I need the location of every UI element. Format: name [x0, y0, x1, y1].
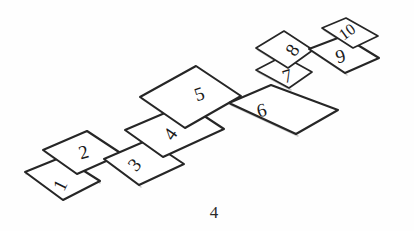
hopscotch-square-6[interactable]	[229, 85, 338, 134]
figure-caption-number: 4	[210, 203, 219, 222]
hopscotch-figure: 1 2 3 4 5 6 7 8 9 10 4	[0, 0, 414, 231]
court-squares-group	[25, 18, 379, 200]
hopscotch-court-drawing: 1 2 3 4 5 6 7 8 9 10 4	[0, 0, 414, 231]
